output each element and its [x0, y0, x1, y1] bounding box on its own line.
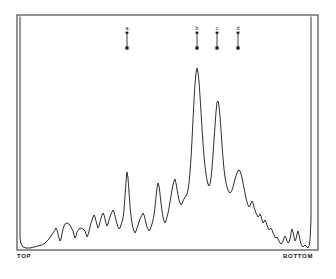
- peak-marker-d: d: [236, 25, 239, 50]
- down-arrow-icon: [125, 46, 128, 49]
- peak-marker-label: d: [237, 25, 240, 31]
- down-arrow-icon: [236, 46, 239, 49]
- peak-marker-group: abcd: [125, 25, 239, 50]
- down-arrow-icon: [195, 46, 198, 49]
- peak-marker-c: c: [215, 25, 218, 50]
- peak-marker-label: c: [216, 25, 219, 31]
- peak-marker-a: a: [125, 25, 128, 50]
- plot-canvas: abcd: [0, 0, 336, 279]
- peak-marker-b: b: [195, 25, 198, 50]
- densitometer-trace-figure: abcd TOP BOTTOM: [0, 0, 336, 279]
- down-arrow-icon: [215, 46, 218, 49]
- peak-marker-label: a: [126, 25, 129, 31]
- axis-label-top: TOP: [17, 253, 31, 259]
- absorbance-trace-line: [20, 17, 311, 248]
- peak-marker-label: b: [196, 25, 199, 31]
- axis-label-bottom: BOTTOM: [283, 253, 313, 259]
